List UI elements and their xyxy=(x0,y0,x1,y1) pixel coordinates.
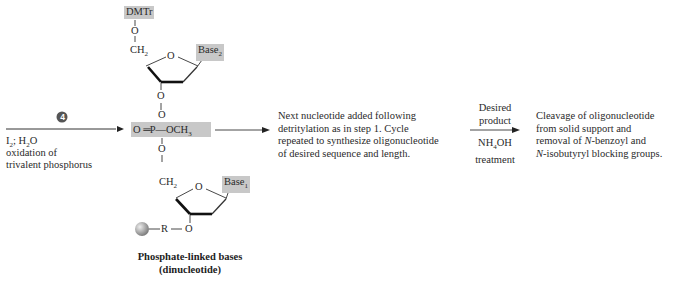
oxygen-3prime-top: O xyxy=(157,90,165,103)
ring-oxygen-bottom: O xyxy=(195,181,203,194)
phosphate-group: O ═P—OCH3 xyxy=(131,122,211,137)
result-text: Cleavage of oligonucleotide from solid s… xyxy=(536,110,662,160)
step-number-badge: 4 xyxy=(57,111,68,123)
final-arrow-above: Desired product xyxy=(466,102,524,127)
oxygen-3prime-bottom: O xyxy=(185,223,193,236)
ring-oxygen-top: O xyxy=(167,50,175,63)
dinucleotide-caption: Phosphate-linked bases (dinucleotide) xyxy=(120,250,260,276)
step-description-2: trivalent phosphorus xyxy=(6,159,92,172)
base2-label: Base2 xyxy=(196,44,224,61)
oxygen-5prime-top: O xyxy=(131,25,139,38)
step-description-1: oxidation of xyxy=(6,147,57,160)
ch2-top: CH2 xyxy=(130,44,148,61)
r-linker: R xyxy=(161,223,168,236)
oxygen-5prime-bottom: O xyxy=(158,143,166,156)
base1-label: Base1 xyxy=(222,176,250,193)
dmtr-group: DMTr xyxy=(124,6,154,19)
next-step-text: Next nucleotide added following detrityl… xyxy=(278,110,439,160)
oxygen-phosphate-top: O xyxy=(158,109,166,122)
ch2-bottom: CH2 xyxy=(159,176,177,193)
final-arrow-below: NH4OH treatment xyxy=(466,137,524,166)
solid-support-bead-icon xyxy=(135,222,149,236)
